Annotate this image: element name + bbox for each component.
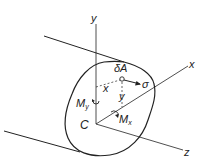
stress-arrowhead-icon [135, 81, 141, 86]
beam-bottom-edge [4, 131, 80, 152]
moment-y-arrowhead-icon [92, 99, 95, 102]
y-axis-label: y [90, 12, 98, 24]
y-distance-label: y [118, 90, 126, 102]
centroid-label: C [80, 118, 89, 132]
z-axis-label: z [183, 146, 190, 158]
z-axis [96, 124, 183, 150]
moment-x-label: Mx [119, 113, 132, 126]
stress-label: σ [142, 78, 149, 90]
moment-y-label: My [76, 97, 89, 111]
x-axis [96, 66, 188, 124]
x-distance-label: x [102, 82, 109, 94]
area-element-label: δA [114, 62, 127, 74]
beam-section-diagram: y x z C δA σ x y My Mx [0, 0, 208, 165]
area-element-icon [120, 77, 124, 81]
x-axis-label: x [188, 58, 195, 70]
beam-top-edge [44, 36, 124, 62]
